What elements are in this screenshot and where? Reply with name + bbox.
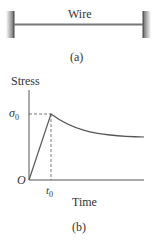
sigma-subscript: 0 bbox=[15, 113, 19, 122]
right-wall bbox=[143, 11, 151, 38]
t0-label: t0 bbox=[46, 184, 53, 199]
caption-b: (b) bbox=[72, 220, 86, 235]
left-wall bbox=[6, 11, 14, 38]
t-subscript: 0 bbox=[49, 190, 53, 199]
stress-curve bbox=[29, 114, 144, 180]
sigma0-label: σ0 bbox=[9, 106, 19, 122]
y-axis-label: Stress bbox=[11, 74, 40, 89]
origin-label: O bbox=[17, 173, 26, 188]
caption-a: (a) bbox=[70, 50, 83, 65]
wire-label: Wire bbox=[68, 7, 92, 22]
diagram-canvas bbox=[0, 0, 159, 249]
x-axis-label: Time bbox=[72, 195, 97, 210]
